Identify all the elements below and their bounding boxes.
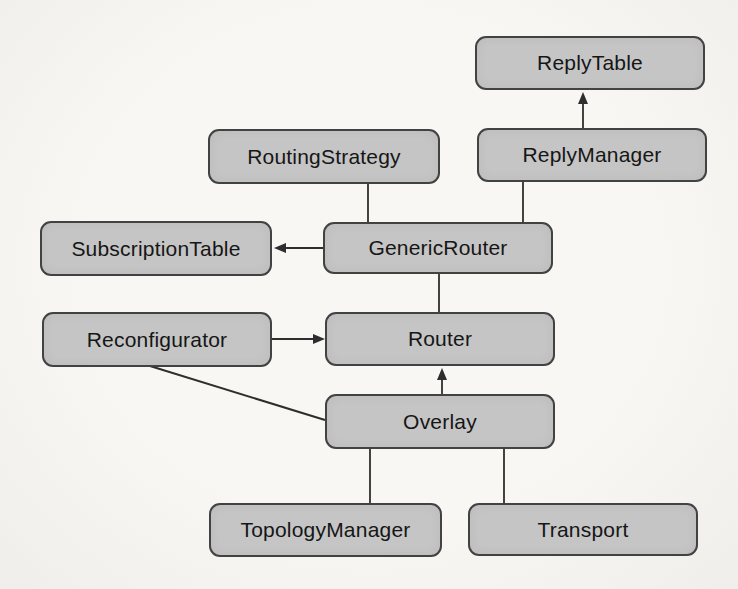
node-subscription-table-label: SubscriptionTable [71, 237, 240, 261]
node-routing-strategy: RoutingStrategy [208, 129, 440, 184]
node-reply-table-label: ReplyTable [537, 51, 643, 75]
node-topology-manager-label: TopologyManager [241, 518, 411, 542]
node-subscription-table: SubscriptionTable [40, 221, 272, 276]
node-reply-manager-label: ReplyManager [523, 143, 662, 167]
node-reply-manager: ReplyManager [477, 128, 707, 182]
edge-reconfigurator-overlay [150, 366, 325, 420]
node-reply-table: ReplyTable [475, 36, 705, 90]
node-generic-router-label: GenericRouter [368, 236, 507, 260]
node-reconfigurator-label: Reconfigurator [87, 328, 228, 352]
node-reconfigurator: Reconfigurator [42, 312, 272, 367]
node-topology-manager: TopologyManager [209, 503, 442, 557]
node-transport: Transport [468, 503, 698, 556]
node-generic-router: GenericRouter [323, 222, 553, 274]
node-overlay-label: Overlay [403, 410, 477, 434]
node-routing-strategy-label: RoutingStrategy [247, 145, 401, 169]
architecture-diagram: ReplyTable RoutingStrategy ReplyManager … [0, 0, 738, 589]
node-router-label: Router [408, 327, 472, 351]
node-transport-label: Transport [538, 518, 629, 542]
node-overlay: Overlay [325, 394, 555, 449]
node-router: Router [325, 312, 555, 366]
